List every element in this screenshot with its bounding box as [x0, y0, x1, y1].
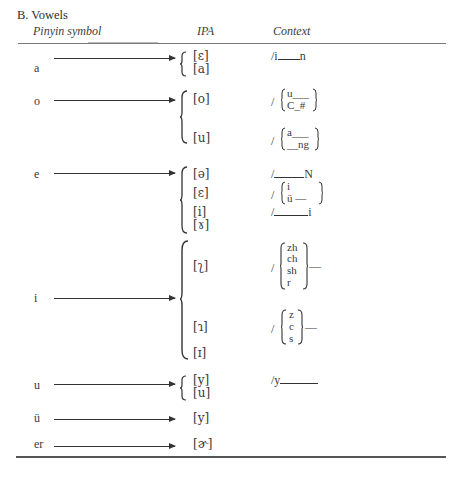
right-brace-icon [314, 127, 320, 151]
pinyin-symbol: a [34, 61, 39, 76]
context-option: C_# [287, 99, 305, 111]
arrow-icon [54, 58, 175, 59]
context-option: ch [287, 252, 297, 264]
ipa-value: [y] [193, 411, 209, 425]
context-suffix: — [305, 320, 317, 335]
arrow-icon [54, 298, 175, 299]
footer-rule [16, 456, 446, 458]
ipa-value: [y] [193, 373, 209, 387]
right-brace-icon [302, 242, 309, 290]
context-option: sh [287, 264, 297, 276]
context-rule: /y [271, 373, 318, 388]
left-brace-icon [279, 242, 286, 290]
pinyin-symbol: ü [34, 411, 40, 426]
context-option: s [289, 332, 293, 344]
ipa-value: [ɚ] [193, 437, 212, 451]
context-rule: /N [271, 167, 313, 182]
pinyin-symbol: e [34, 167, 39, 182]
pinyin-symbol: o [34, 94, 40, 109]
context-option: z [289, 308, 294, 320]
left-brace-icon [179, 375, 187, 401]
left-brace-icon [179, 166, 188, 234]
ipa-value: [ə] [193, 167, 209, 181]
left-brace-icon [179, 51, 187, 77]
context-suffix: — [309, 259, 321, 274]
arrow-icon [54, 419, 175, 420]
ipa-value: [o] [193, 92, 210, 106]
ipa-value: [a] [193, 62, 210, 76]
context-option: __ng [287, 138, 309, 150]
left-brace-icon [280, 309, 287, 345]
context-option: ü — [287, 192, 306, 204]
ipa-value: [ɪ] [193, 346, 206, 360]
context-rule: / [271, 188, 274, 203]
context-rule: / [271, 261, 274, 276]
ipa-value: [u] [193, 131, 210, 145]
context-rule: /in [271, 49, 306, 64]
context-option: c [289, 320, 294, 332]
left-brace-icon [280, 88, 286, 112]
pinyin-symbol: er [34, 437, 43, 452]
context-rule: / [271, 95, 274, 110]
section-title: B. Vowels [17, 8, 68, 23]
left-brace-icon [280, 127, 286, 151]
pinyin-symbol: u [34, 378, 40, 393]
arrow-icon [54, 446, 175, 447]
arrow-icon [54, 100, 175, 101]
arrow-icon [54, 384, 175, 385]
context-option: a___ [287, 126, 308, 138]
ipa-value: [i] [193, 205, 206, 219]
left-brace-icon [179, 90, 188, 144]
left-brace-icon [280, 181, 286, 205]
left-brace-icon [179, 240, 189, 360]
arrow-icon [54, 173, 175, 174]
header-rule [18, 43, 446, 44]
ipa-value: [u] [193, 386, 210, 400]
right-brace-icon [318, 181, 324, 205]
right-brace-icon [312, 88, 318, 112]
ipa-value: [ʅ] [193, 259, 208, 273]
right-brace-icon [297, 309, 304, 345]
ipa-value: [ɛ] [193, 49, 209, 63]
context-rule: / [271, 134, 274, 149]
context-option: i [287, 180, 290, 192]
ipa-value: [ɛ] [193, 186, 209, 200]
column-header-pinyin: Pinyin symbol [33, 24, 101, 39]
context-rule: / [271, 322, 274, 337]
context-rule: /i [271, 205, 312, 220]
ipa-value: [ɿ] [193, 320, 208, 334]
pinyin-symbol: i [34, 291, 37, 306]
context-option: u___ [287, 87, 309, 99]
ipa-value: [ɤ] [193, 218, 209, 232]
column-header-context: Context [273, 24, 310, 39]
column-header-ipa: IPA [197, 24, 214, 39]
context-option: r [287, 276, 291, 288]
